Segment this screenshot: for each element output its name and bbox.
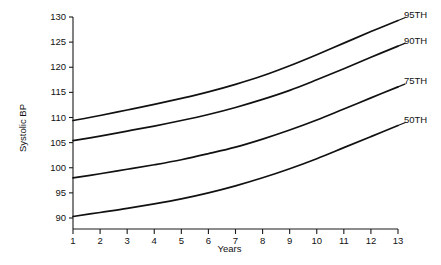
series-label-50th: 50TH [404,114,427,125]
x-tick-label-11: 11 [339,235,349,246]
y-tick-label-120: 120 [50,61,66,72]
y-axis-group: 9095100105110115120125130 [50,11,73,229]
x-tick-label-5: 5 [179,235,184,246]
series-label-95th: 95TH [404,9,427,20]
y-tick-label-90: 90 [55,212,66,223]
series-label-90th: 90TH [404,35,427,46]
x-tick-label-12: 12 [366,235,377,246]
x-tick-label-1: 1 [70,235,75,246]
y-tick-label-125: 125 [50,36,66,47]
y-tick-label-105: 105 [50,137,66,148]
y-tick-marks [69,17,73,218]
y-tick-labels: 9095100105110115120125130 [50,11,66,223]
y-tick-label-130: 130 [50,11,66,22]
y-tick-label-95: 95 [55,187,66,198]
chart-canvas: 9095100105110115120125130 12345678910111… [0,0,441,265]
x-axis-title: Years [218,243,242,254]
x-tick-label-9: 9 [287,235,292,246]
x-tick-label-6: 6 [206,235,211,246]
x-tick-label-3: 3 [125,235,130,246]
systolic-bp-percentile-chart: 9095100105110115120125130 12345678910111… [0,0,441,265]
series-label-75th: 75TH [404,75,427,86]
percentile-curves [73,21,398,217]
x-tick-label-4: 4 [152,235,157,246]
y-tick-label-115: 115 [51,86,66,97]
x-tick-label-13: 13 [393,235,404,246]
x-tick-label-8: 8 [260,235,265,246]
x-tick-label-2: 2 [97,235,102,246]
y-axis-title: Systolic BP [17,104,28,152]
x-tick-label-10: 10 [311,235,322,246]
curve-95th [73,21,398,121]
y-tick-label-110: 110 [51,112,66,123]
curve-90th [73,46,398,140]
x-tick-marks [73,229,398,234]
series-labels: 95TH90TH75TH50TH [404,9,427,125]
y-tick-label-100: 100 [50,162,66,173]
